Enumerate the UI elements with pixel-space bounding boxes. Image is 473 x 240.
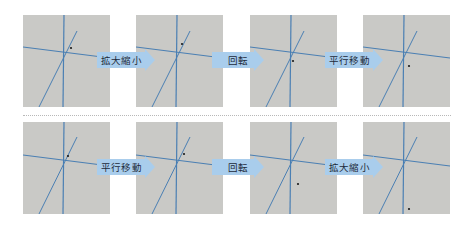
step-arrow-top-2: 回転 (212, 51, 264, 69)
arrow-head-icon (254, 156, 264, 178)
arrow-head-icon (145, 49, 155, 71)
step-arrow-bottom-1: 平行移動 (97, 158, 155, 176)
point (408, 208, 410, 210)
arrow-head-icon (254, 49, 264, 71)
dotted-divider (23, 115, 451, 116)
step-label: 回転 (212, 159, 254, 175)
step-label: 拡大縮小 (97, 52, 145, 68)
point (292, 60, 294, 62)
step-arrow-top-3: 平行移動 (325, 51, 383, 69)
point (297, 183, 299, 185)
step-arrow-top-1: 拡大縮小 (97, 51, 155, 69)
arrow-head-icon (373, 49, 383, 71)
step-label: 平行移動 (97, 159, 145, 175)
arrow-head-icon (373, 156, 383, 178)
point (70, 47, 72, 49)
point (67, 155, 69, 157)
step-arrow-bottom-2: 回転 (212, 158, 264, 176)
point (408, 65, 410, 67)
step-arrow-bottom-3: 拡大縮小 (325, 158, 383, 176)
step-label: 平行移動 (325, 52, 373, 68)
point (181, 43, 183, 45)
arrow-head-icon (145, 156, 155, 178)
step-label: 回転 (212, 52, 254, 68)
point (183, 153, 185, 155)
step-label: 拡大縮小 (325, 159, 373, 175)
